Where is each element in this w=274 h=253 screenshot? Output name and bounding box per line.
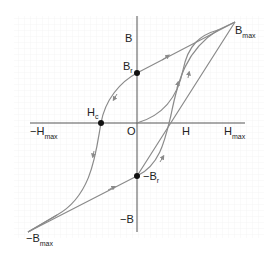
neg-br-point — [134, 173, 140, 179]
hysteresis-diagram: B −B Br −Br Hc O H Hmax −Hmax Bmax −Bmax — [0, 0, 274, 253]
h-tick-label: H — [182, 125, 190, 137]
origin-label: O — [127, 125, 136, 137]
neg-b-axis-label: −B — [120, 213, 134, 225]
b-axis-label: B — [125, 32, 132, 44]
hc-point — [98, 120, 104, 126]
br-point — [134, 70, 140, 76]
